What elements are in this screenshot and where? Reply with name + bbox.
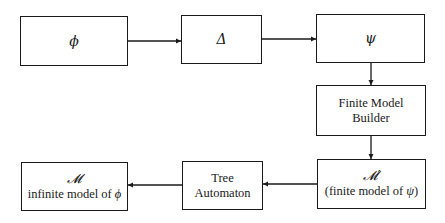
m-caption: infinite model of ϕ [28, 187, 122, 201]
node-m: 𝓜 infinite model of ϕ [21, 162, 128, 211]
tree-line2: Automaton [194, 186, 250, 200]
m-prime-caption-post: ) [414, 184, 418, 198]
node-m-prime: 𝓜′ (finite model of ψ) [317, 159, 426, 209]
psi-symbol: ψ [365, 30, 376, 46]
fmb-line1: Finite Model [339, 96, 404, 110]
phi-symbol: ϕ [69, 33, 79, 49]
node-tree-automaton: Tree Automaton [182, 161, 263, 210]
tree-line1: Tree [211, 171, 233, 185]
fmb-line2: Builder [352, 111, 390, 125]
node-finite-model-builder: Finite Model Builder [316, 85, 426, 136]
m-caption-pre: infinite model of [28, 187, 115, 201]
node-delta: Δ [181, 15, 262, 64]
m-prime-caption-symbol: ψ [406, 184, 414, 198]
m-prime-symbol: 𝓜′ [363, 169, 381, 184]
m-prime-caption: (finite model of ψ) [325, 184, 419, 198]
delta-symbol: Δ [216, 31, 226, 47]
m-symbol: 𝓜 [67, 172, 82, 187]
m-caption-symbol: ϕ [115, 187, 121, 201]
node-psi: ψ [316, 14, 425, 63]
node-phi: ϕ [20, 16, 128, 66]
m-prime-caption-pre: (finite model of [325, 184, 407, 198]
